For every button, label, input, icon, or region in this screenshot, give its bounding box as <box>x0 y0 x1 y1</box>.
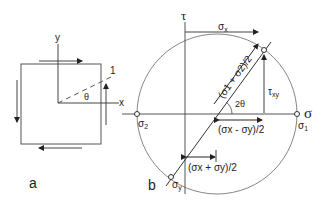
sigma-2-label: σ2 <box>138 118 148 130</box>
sigma-x-label: σx <box>218 21 228 33</box>
two-theta-arc <box>226 102 232 114</box>
panel-a-element: y x 1 θ a <box>17 32 124 191</box>
tau-xy-label: τxy <box>268 86 279 99</box>
half-diff-label: (σx - σy)/2 <box>218 124 265 135</box>
mohr-circle-figure: y x 1 θ a τ σ σx τxy σ1 σ2 σy 2θ (σ1 + σ… <box>0 0 324 206</box>
plane-label: 1 <box>110 65 116 76</box>
tau-axis-label: τ <box>181 8 186 23</box>
tau-xy-point <box>262 48 267 53</box>
radius-label: (σ1 + σ2)/2 <box>216 53 254 100</box>
figure-canvas: y x 1 θ a τ σ σx τxy σ1 σ2 σy 2θ (σ1 + σ… <box>0 0 324 206</box>
sigma-1-point <box>295 112 300 117</box>
half-sum-label: (σx + σy)/2 <box>188 162 237 173</box>
panel-b-mohr-circle: τ σ σx τxy σ1 σ2 σy 2θ (σ1 + σ2)/2 (σx -… <box>122 8 312 194</box>
panel-a-label: a <box>29 175 37 191</box>
sigma-axis-label: σ <box>304 105 312 121</box>
sigma-1-label: σ1 <box>298 120 308 132</box>
panel-b-label: b <box>148 177 156 193</box>
sigma-2-point <box>135 112 140 117</box>
stress-element-square <box>21 64 101 144</box>
x-axis-label: x <box>119 97 124 108</box>
theta-label: θ <box>84 92 89 102</box>
two-theta-label: 2θ <box>235 99 245 109</box>
sigma-y-label: σy <box>172 179 182 192</box>
y-axis-label: y <box>55 32 60 43</box>
